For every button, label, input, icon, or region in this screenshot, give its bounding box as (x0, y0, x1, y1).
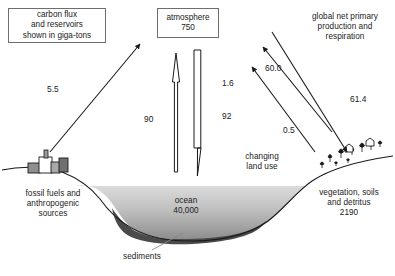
reservoir-label-sediments: sediments (112, 252, 172, 262)
flux-label-fossil-fuel-emissions: 5.5 (47, 85, 59, 94)
arrow-land-use-change (252, 67, 315, 152)
vegetation-icon (320, 138, 382, 168)
legend-box: carbon flux and reservoirs shown in giga… (8, 8, 106, 43)
flux-label-river-flux: 1.6 (222, 79, 234, 88)
process-label-land-use: changing land use (236, 152, 288, 172)
carbon-cycle-diagram: carbon flux and reservoirs shown in giga… (0, 0, 395, 276)
reservoir-label-fossil-fuels: fossil fuels and anthropogenic sources (4, 189, 102, 220)
arrow-photosynthesis (263, 47, 332, 132)
flux-label-ocean-uptake: 90 (144, 115, 153, 124)
process-label-npp: global net primary production and respir… (298, 12, 392, 43)
atmosphere-box: atmosphere 750 (157, 8, 219, 38)
flux-label-respiration: 61.4 (350, 95, 366, 104)
flux-label-photosynthesis: 60.0 (265, 64, 281, 73)
reservoir-label-ocean: ocean 40,000 (155, 196, 217, 216)
flux-label-land-use-change: 0.5 (283, 126, 295, 135)
arrow-fossil-fuel-emissions (50, 44, 140, 152)
reservoir-label-vegetation: vegetation, soils and detritus 2190 (305, 188, 393, 219)
arrow-ocean-release (194, 50, 201, 176)
flux-label-ocean-release: 92 (222, 112, 231, 121)
factory-icon (28, 150, 68, 173)
arrow-ocean-uptake (173, 53, 180, 172)
